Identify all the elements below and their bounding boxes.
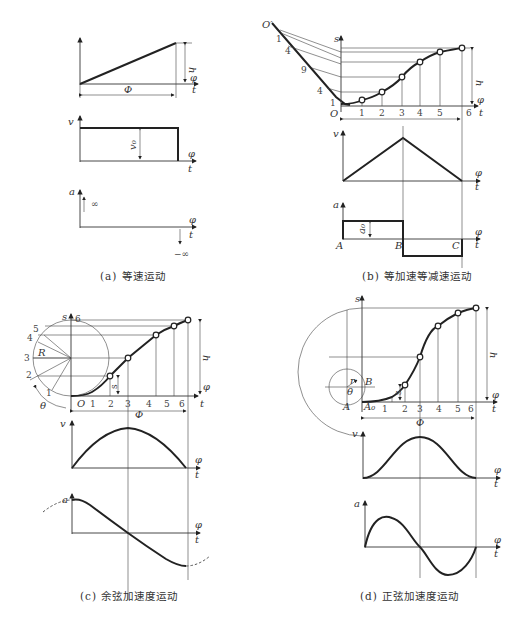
svg-text:t: t <box>494 548 499 559</box>
svg-text:1: 1 <box>46 388 52 398</box>
svg-text:t: t <box>494 478 499 489</box>
svg-text:r: r <box>350 375 356 386</box>
svg-text:∞: ∞ <box>91 199 99 209</box>
svg-text:2: 2 <box>26 370 32 380</box>
svg-text:A: A <box>335 240 343 251</box>
svg-text:s: s <box>355 293 360 304</box>
svg-text:φ: φ <box>477 94 484 105</box>
svg-text:t: t <box>195 534 200 545</box>
svg-text:φ: φ <box>492 389 499 400</box>
svg-text:Φ: Φ <box>135 409 143 420</box>
svg-text:h: h <box>474 80 485 86</box>
caption-panel-a: (a) 等速运动 <box>100 268 166 283</box>
caption-panel-d: (d) 正弦加速度运动 <box>360 588 459 603</box>
svg-text:t: t <box>195 469 200 480</box>
svg-text:φ: φ <box>203 381 210 392</box>
svg-text:A: A <box>342 401 350 412</box>
svg-text:φ: φ <box>188 148 195 159</box>
svg-text:θ: θ <box>40 400 46 411</box>
svg-text:4: 4 <box>317 86 323 96</box>
panel-a-uniform-motion: h φ t Φ v v₀ φ t a ∞ −∞ φ t <box>68 38 198 259</box>
svg-text:φ: φ <box>475 226 482 237</box>
svg-text:Φ: Φ <box>124 84 132 95</box>
panel-d-sine-accel: r B θ A A₀ s s 1 2 3 4 5 6 h φ t Φ <box>298 293 501 578</box>
svg-text:φ: φ <box>195 454 202 465</box>
svg-text:1: 1 <box>359 108 365 118</box>
svg-text:−∞: −∞ <box>174 249 189 259</box>
svg-text:v: v <box>352 428 358 439</box>
motion-law-diagram: h φ t Φ v v₀ φ t a ∞ −∞ φ t O′ 1 4 9 <box>0 0 520 618</box>
svg-text:a: a <box>354 498 360 509</box>
svg-text:t: t <box>475 181 480 192</box>
svg-text:2: 2 <box>108 399 114 409</box>
svg-text:φ: φ <box>494 534 501 545</box>
panel-b-const-accel-decel: O′ 1 4 9 4 1 s O 1 2 3 4 5 6 <box>262 19 485 268</box>
svg-text:φ: φ <box>190 72 197 83</box>
svg-text:1: 1 <box>90 399 96 409</box>
velocity-curve <box>363 437 476 478</box>
svg-text:5: 5 <box>437 108 443 118</box>
svg-text:4: 4 <box>417 108 423 118</box>
svg-text:1: 1 <box>382 404 388 414</box>
svg-text:1: 1 <box>330 98 336 108</box>
svg-text:a: a <box>69 186 75 197</box>
svg-text:4: 4 <box>146 399 152 409</box>
svg-text:v: v <box>60 418 66 429</box>
svg-text:5: 5 <box>455 404 461 414</box>
caption-panel-b: (b) 等加速等减速运动 <box>362 268 472 283</box>
svg-text:2: 2 <box>402 404 408 414</box>
svg-text:t: t <box>475 239 480 250</box>
svg-text:R: R <box>37 347 46 358</box>
svg-text:a: a <box>333 199 339 210</box>
svg-text:6: 6 <box>468 404 474 414</box>
svg-text:O: O <box>77 398 85 409</box>
svg-text:a₀: a₀ <box>356 224 367 234</box>
svg-text:3: 3 <box>417 404 423 414</box>
svg-text:v₀: v₀ <box>127 140 138 150</box>
svg-text:5: 5 <box>164 399 170 409</box>
svg-text:6: 6 <box>75 314 81 324</box>
svg-text:φ: φ <box>494 464 501 475</box>
svg-text:s: s <box>393 390 403 395</box>
svg-text:3: 3 <box>125 399 131 409</box>
velocity-curve <box>72 428 186 468</box>
svg-text:O′: O′ <box>262 19 273 30</box>
svg-text:B: B <box>394 240 402 251</box>
svg-text:a: a <box>62 494 68 505</box>
svg-text:t: t <box>200 398 205 409</box>
svg-text:v: v <box>333 128 339 139</box>
svg-text:C: C <box>452 240 460 251</box>
svg-text:Φ: Φ <box>416 417 424 428</box>
svg-text:θ: θ <box>347 386 353 397</box>
svg-text:6: 6 <box>466 108 472 118</box>
svg-text:5: 5 <box>33 324 39 334</box>
svg-text:h: h <box>488 352 499 358</box>
svg-text:3: 3 <box>24 353 30 363</box>
svg-text:s: s <box>334 33 339 44</box>
svg-text:s: s <box>109 384 119 389</box>
svg-text:t: t <box>192 84 197 95</box>
svg-text:4: 4 <box>27 333 33 343</box>
svg-text:6: 6 <box>179 399 185 409</box>
svg-text:9: 9 <box>301 65 307 75</box>
svg-text:φ: φ <box>475 167 482 178</box>
svg-text:s: s <box>62 311 67 322</box>
svg-text:t: t <box>479 107 484 118</box>
svg-text:φ: φ <box>195 519 202 530</box>
acceleration-curve <box>365 517 476 575</box>
svg-text:4: 4 <box>285 46 291 56</box>
svg-text:φ: φ <box>189 214 196 225</box>
panel-c-cosine-accel: s 6 5 4 3 2 1 R θ s O <box>24 311 212 600</box>
svg-text:t: t <box>189 229 194 240</box>
svg-text:t: t <box>188 163 193 174</box>
svg-text:3: 3 <box>399 108 405 118</box>
displacement-line <box>80 43 176 84</box>
svg-text:B: B <box>364 376 372 387</box>
svg-text:h: h <box>201 355 212 361</box>
svg-text:O: O <box>330 108 338 119</box>
caption-panel-c: (c) 余弦加速度运动 <box>80 588 178 603</box>
svg-text:1: 1 <box>276 34 282 44</box>
svg-text:t: t <box>492 403 497 414</box>
svg-text:4: 4 <box>436 404 442 414</box>
svg-text:2: 2 <box>379 108 385 118</box>
